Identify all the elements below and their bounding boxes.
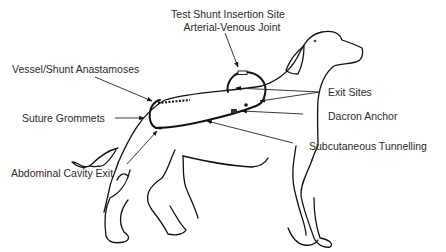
exit-site-dot (244, 103, 248, 107)
leader-lines (95, 33, 320, 164)
leader-exit-site-2 (260, 92, 320, 101)
dacron-anchor-marker (231, 109, 237, 113)
leader-exit-site-1 (236, 88, 320, 92)
label-subcutaneous-tunnelling: Subcutaneous Tunnelling (309, 140, 427, 152)
dog-rear-leg-back (147, 150, 186, 235)
av-joint-marker (238, 71, 247, 75)
shunt-diagram: Test Shunt Insertion Site Arterial-Venou… (0, 0, 446, 252)
dog-hind-leg-rear (105, 170, 130, 243)
dog-eye (314, 40, 317, 43)
label-suture-grommets: Suture Grommets (22, 112, 105, 124)
leader-dacron-anchor (242, 111, 303, 114)
label-test-shunt-line2: Arterial-Venous Joint (184, 21, 281, 33)
label-dacron-anchor: Dacron Anchor (328, 110, 398, 122)
leader-anastamoses (95, 77, 152, 101)
shunt-loop (228, 72, 266, 94)
label-vessel-anastamoses: Vessel/Shunt Anastamoses (12, 63, 139, 75)
label-exit-sites: Exit Sites (328, 86, 372, 98)
label-abdominal-cavity-exit: Abdominal Cavity Exit (11, 167, 113, 179)
label-test-shunt-line1: Test Shunt Insertion Site (171, 8, 285, 20)
dog-hind-leg-front (183, 156, 198, 218)
leader-subcutaneous (207, 121, 293, 143)
dog-belly (183, 156, 268, 167)
dog-tail (72, 148, 118, 168)
dog-front-leg-2 (293, 146, 306, 235)
labels: Test Shunt Insertion Site Arterial-Venou… (11, 8, 427, 179)
dog-hind-knee (117, 174, 128, 180)
abdominal-exit-dot (158, 126, 161, 129)
leader-test-shunt (225, 33, 238, 67)
